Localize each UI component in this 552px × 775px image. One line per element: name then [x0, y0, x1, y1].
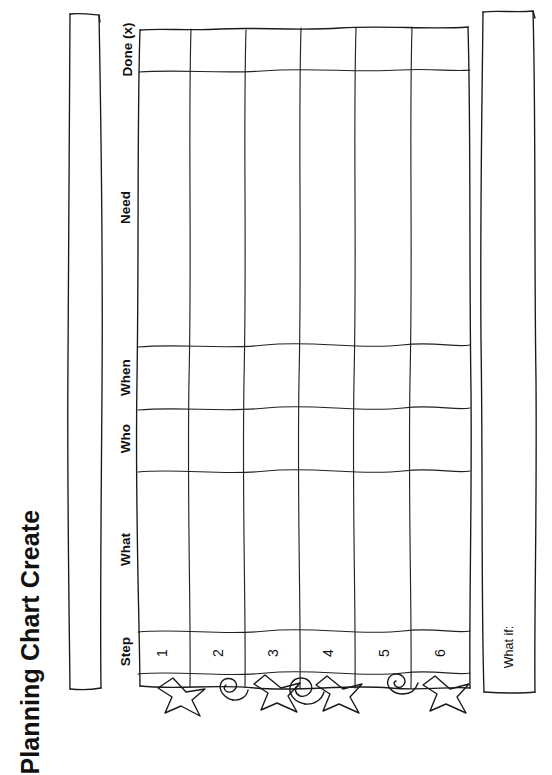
cell-row3-who[interactable]	[247, 409, 299, 470]
cell-row2-done[interactable]	[192, 30, 244, 71]
cell-row1-when[interactable]	[142, 347, 190, 408]
what-if-writing-area[interactable]	[484, 14, 534, 634]
doodle-spiral-3	[388, 674, 418, 694]
cell-row2-when[interactable]	[192, 347, 244, 408]
cell-row1-done[interactable]	[142, 30, 190, 71]
cell-row2-need[interactable]	[192, 72, 244, 346]
notes-box-writing-area[interactable]	[70, 16, 100, 686]
cell-row5-who[interactable]	[357, 409, 410, 470]
cell-row4-done[interactable]	[302, 30, 354, 71]
doodle-star-1	[158, 678, 205, 716]
cell-row3-step[interactable]	[247, 632, 299, 673]
cell-row4-need[interactable]	[302, 72, 354, 346]
cell-row3-done[interactable]	[247, 30, 299, 71]
cell-row6-what[interactable]	[413, 471, 469, 631]
doodle-spiral-1	[220, 679, 248, 701]
cell-row4-who[interactable]	[302, 409, 354, 470]
cell-row5-done[interactable]	[357, 30, 410, 71]
cell-row6-step[interactable]	[413, 632, 469, 673]
cell-row1-who[interactable]	[142, 409, 190, 470]
cell-row5-need[interactable]	[357, 72, 410, 346]
cell-row4-what[interactable]	[302, 471, 354, 631]
cell-row1-need[interactable]	[142, 72, 190, 346]
cell-row2-what[interactable]	[192, 471, 244, 631]
cell-row6-when[interactable]	[413, 347, 469, 408]
cell-row3-need[interactable]	[247, 72, 299, 346]
cell-row5-step[interactable]	[357, 632, 410, 673]
cell-row3-when[interactable]	[247, 347, 299, 408]
cell-row5-when[interactable]	[357, 347, 410, 408]
cell-row2-who[interactable]	[192, 409, 244, 470]
cell-row4-step[interactable]	[302, 632, 354, 673]
cell-row6-need[interactable]	[413, 72, 469, 346]
cell-row2-step[interactable]	[192, 632, 244, 673]
cell-row1-step[interactable]	[142, 632, 190, 673]
cell-row5-what[interactable]	[357, 471, 410, 631]
cell-row1-what[interactable]	[142, 471, 190, 631]
cell-row6-who[interactable]	[413, 409, 469, 470]
doodle-star-4	[423, 676, 469, 713]
cell-row6-done[interactable]	[413, 30, 469, 71]
cell-row3-what[interactable]	[247, 471, 299, 631]
cell-row4-when[interactable]	[302, 347, 354, 408]
